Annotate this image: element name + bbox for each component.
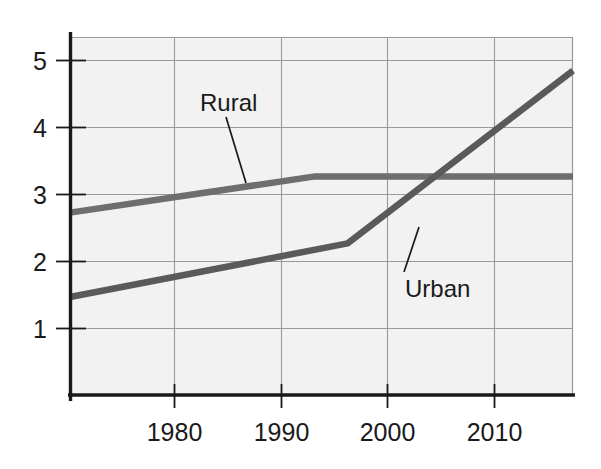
y-tick-label-2: 2 [33,248,47,276]
chart-figure: 5 4 3 2 1 1980 1990 2000 2010 Rural Urba… [0,0,601,469]
x-tick-label-1990: 1990 [254,418,310,446]
x-tick-label-2010: 2010 [467,418,523,446]
x-tick-label-1980: 1980 [147,418,203,446]
series-label-urban: Urban [405,275,470,302]
line-chart: 5 4 3 2 1 1980 1990 2000 2010 Rural Urba… [0,0,601,469]
y-tick-label-1: 1 [33,315,47,343]
plot-background [70,37,573,396]
y-tick-label-4: 4 [33,114,47,142]
y-tick-label-5: 5 [33,47,47,75]
series-label-rural: Rural [200,89,257,116]
x-tick-label-2000: 2000 [360,418,416,446]
y-tick-label-3: 3 [33,181,47,209]
